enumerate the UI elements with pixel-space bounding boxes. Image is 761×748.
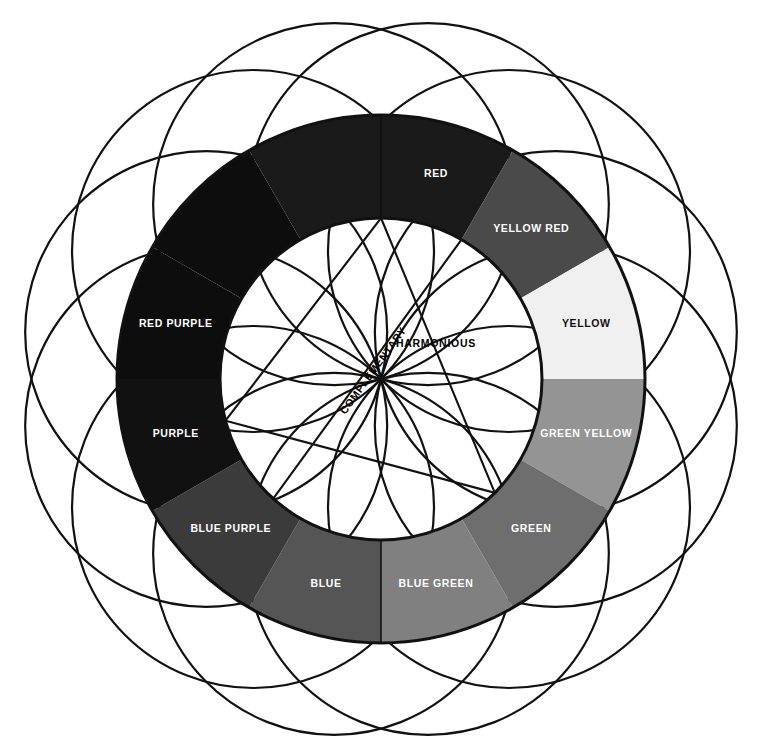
segment-label-red: RED <box>424 167 448 179</box>
segment-label-purple: PURPLE <box>153 427 199 439</box>
segment-label-blue-purple: BLUE PURPLE <box>190 522 271 534</box>
segment-label-yellow: YELLOW <box>562 317 611 329</box>
color-wheel-diagram: COMPLEMENTARYHARMONIOUS REDYELLOW REDYEL… <box>0 0 761 748</box>
segment-label-green: GREEN <box>511 522 551 534</box>
segment-label-blue: BLUE <box>311 577 342 589</box>
color-wheel-svg: COMPLEMENTARYHARMONIOUS REDYELLOW REDYEL… <box>0 0 761 748</box>
segment-label-red-purple: RED PURPLE <box>139 317 213 329</box>
harmonious-axis-label: HARMONIOUS <box>396 337 476 349</box>
segment-label-green-yellow: GREEN YELLOW <box>540 427 632 439</box>
segment-label-blue-green: BLUE GREEN <box>399 577 474 589</box>
segment-label-yellow-red: YELLOW RED <box>493 222 569 234</box>
